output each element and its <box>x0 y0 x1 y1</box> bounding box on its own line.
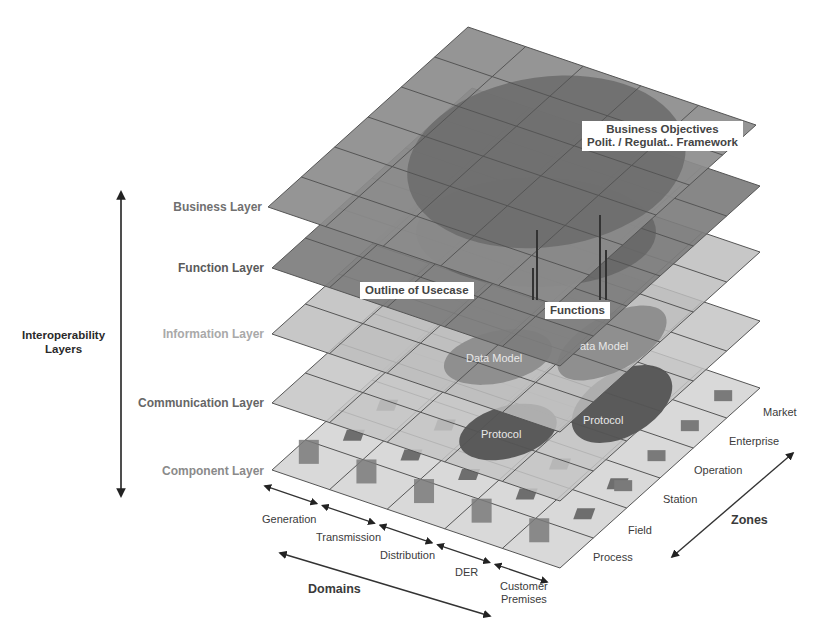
zone-enterprise: Enterprise <box>729 435 779 447</box>
domain-transmission: Transmission <box>316 531 381 544</box>
layer-label-component: Component Layer <box>162 464 264 478</box>
domain-customer-line1: Customer <box>500 580 548 593</box>
domain-distribution: Distribution <box>380 549 435 562</box>
domain-der: DER <box>455 566 478 579</box>
interoperability-axis-label: Interoperability Layers <box>22 328 105 356</box>
zones-axis-label: Zones <box>731 513 768 527</box>
domain-span-arrow <box>438 545 490 563</box>
zone-device-icon <box>714 390 732 401</box>
domain-span-arrow <box>265 486 317 504</box>
callout-functions: Functions <box>545 302 610 319</box>
field-asset-icon <box>299 440 319 464</box>
callout-business-objectives-line2: Polit. / Regulat.. Framework <box>587 136 738 149</box>
protocol-label-1: Protocol <box>481 428 521 440</box>
layer-label-information: Information Layer <box>163 327 264 341</box>
interoperability-label-line2: Layers <box>22 342 105 356</box>
domain-span-arrow <box>380 525 432 543</box>
data-model-label-2: ata Model <box>580 340 628 352</box>
zone-process: Process <box>593 551 633 563</box>
field-asset-icon <box>356 459 376 483</box>
zone-device-icon <box>648 450 666 461</box>
field-asset-icon <box>529 518 549 542</box>
domain-customer-line2: Premises <box>500 593 548 606</box>
domain-span-arrow <box>322 506 374 524</box>
layer-planes <box>0 0 817 638</box>
field-asset-icon <box>472 499 492 523</box>
data-model-label-1: Data Model <box>466 352 522 364</box>
protocol-label-2: Protocol <box>583 414 623 426</box>
layer-label-communication: Communication Layer <box>138 396 264 410</box>
zone-operation: Operation <box>694 464 742 476</box>
zone-device-icon <box>614 480 632 491</box>
sgam-diagram: Interoperability Layers Business Layer F… <box>0 0 817 638</box>
domain-customer-premises: Customer Premises <box>500 580 548 606</box>
zone-field: Field <box>628 524 652 536</box>
interoperability-label-line1: Interoperability <box>22 328 105 342</box>
layer-label-business: Business Layer <box>173 200 262 214</box>
field-asset-icon <box>414 479 434 503</box>
domain-generation: Generation <box>262 513 316 526</box>
callout-outline-of-usecase: Outline of Usecase <box>360 282 474 299</box>
callout-business-objectives-line1: Business Objectives <box>587 123 738 136</box>
zone-market: Market <box>763 406 797 418</box>
zone-station: Station <box>663 493 697 505</box>
callout-business-objectives: Business Objectives Polit. / Regulat.. F… <box>582 121 743 151</box>
layer-label-function: Function Layer <box>178 261 264 275</box>
domains-axis-label: Domains <box>308 582 361 596</box>
zone-device-icon <box>681 420 699 431</box>
